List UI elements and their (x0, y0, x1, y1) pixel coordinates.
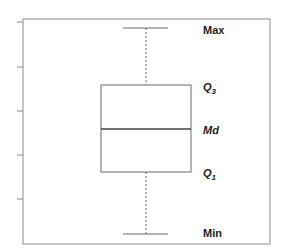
label-min: Min (203, 227, 222, 239)
y-axis-ticks (17, 22, 23, 199)
box-plot: Max Q3 Md Q1 Min (0, 0, 284, 252)
label-q3: Q3 (203, 81, 217, 96)
label-max: Max (203, 24, 225, 36)
label-q1: Q1 (203, 167, 217, 182)
label-median: Md (203, 124, 219, 136)
